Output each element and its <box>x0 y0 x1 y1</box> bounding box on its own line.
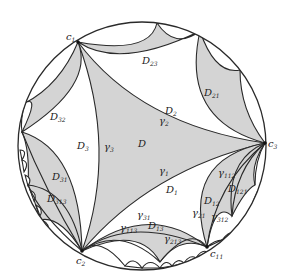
cusp-c11-point <box>205 245 209 249</box>
region-D23-shape <box>78 23 200 54</box>
cusp-c1-point <box>76 40 80 44</box>
cusp-c2-point <box>80 249 84 253</box>
label-arc-gamma31: γ31 <box>137 209 151 221</box>
hyperbolic-tessellation-figure: c1 c2 c3 c11 D D2 D3 D1 D23 D21 D32 D31 … <box>0 0 292 277</box>
label-region-D13: D13 <box>147 220 164 232</box>
label-region-D3: D3 <box>76 140 89 152</box>
label-arc-gamma113: γ113 <box>120 222 138 234</box>
label-c3: c3 <box>268 138 278 150</box>
label-region-D: D <box>137 138 146 149</box>
disk-diagram: c1 c2 c3 c11 D D2 D3 D1 D23 D21 D32 D31 … <box>0 0 292 277</box>
label-c11: c11 <box>210 248 223 260</box>
label-c2: c2 <box>76 255 86 267</box>
label-region-D23: D23 <box>141 55 158 67</box>
label-region-D32: D32 <box>49 111 66 123</box>
label-c1: c1 <box>66 31 75 43</box>
label-region-D2: D2 <box>164 105 177 117</box>
label-region-D1: D1 <box>165 184 178 196</box>
cusp-c3-point <box>263 141 267 145</box>
